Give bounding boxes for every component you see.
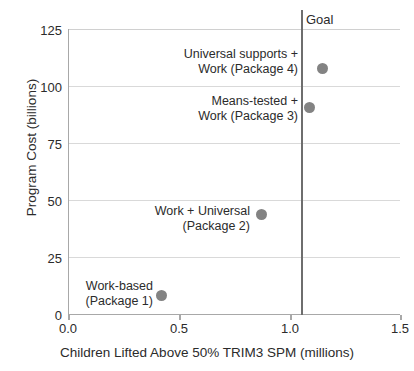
point-label-package-3-line-2: Work (Package 3) bbox=[158, 109, 298, 124]
point-label-package-4: Universal supports + Work (Package 4) bbox=[158, 47, 298, 77]
point-label-package-2: Work + Universal (Package 2) bbox=[125, 204, 250, 234]
data-point-package-2[interactable] bbox=[256, 209, 267, 220]
goal-line-label: Goal bbox=[306, 13, 333, 26]
x-tick-mark-1 bbox=[179, 315, 181, 320]
data-point-package-1[interactable] bbox=[156, 290, 167, 301]
point-label-package-1: Work-based (Package 1) bbox=[48, 279, 153, 309]
point-label-package-4-line-2: Work (Package 4) bbox=[158, 62, 298, 77]
gridline-75 bbox=[69, 143, 400, 144]
data-point-package-3[interactable] bbox=[304, 102, 315, 113]
point-label-package-1-line-1: Work-based bbox=[48, 279, 153, 294]
x-tick-mark-2 bbox=[290, 315, 292, 320]
point-label-package-3: Means-tested + Work (Package 3) bbox=[158, 94, 298, 124]
gridline-25 bbox=[69, 257, 400, 258]
y-axis-title: Program Cost (billions) bbox=[24, 23, 39, 273]
x-axis-title: Children Lifted Above 50% TRIM3 SPM (mil… bbox=[0, 345, 414, 360]
x-tick-label-0.5: 0.5 bbox=[156, 322, 202, 335]
scatter-chart: 125 100 75 50 25 0 Program Cost (billion… bbox=[0, 0, 414, 371]
goal-reference-line bbox=[301, 10, 303, 315]
point-label-package-1-line-2: (Package 1) bbox=[48, 294, 153, 309]
point-label-package-3-line-1: Means-tested + bbox=[158, 94, 298, 109]
data-point-package-4[interactable] bbox=[317, 63, 328, 74]
point-label-package-4-line-1: Universal supports + bbox=[158, 47, 298, 62]
point-label-package-2-line-2: (Package 2) bbox=[125, 219, 250, 234]
x-tick-label-1.0: 1.0 bbox=[267, 322, 313, 335]
point-label-package-2-line-1: Work + Universal bbox=[125, 204, 250, 219]
x-tick-label-1.5: 1.5 bbox=[377, 322, 414, 335]
gridline-125 bbox=[69, 29, 400, 30]
x-tick-mark-0 bbox=[68, 315, 70, 320]
gridline-50 bbox=[69, 200, 400, 201]
y-tick-label-0: 0 bbox=[20, 309, 62, 322]
gridline-100 bbox=[69, 86, 400, 87]
x-tick-mark-3 bbox=[400, 315, 402, 320]
x-tick-label-0.0: 0.0 bbox=[45, 322, 91, 335]
